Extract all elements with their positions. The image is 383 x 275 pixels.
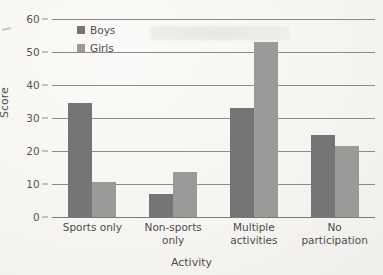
bar-boys-3 <box>311 135 335 218</box>
x-category-label-line: only <box>133 234 214 247</box>
bar-girls-1 <box>173 172 197 217</box>
bar-chart: Score 0102030405060 Sports onlyNon-sport… <box>0 0 383 275</box>
y-tick-label-20: 20 <box>26 145 40 157</box>
x-category-label-3: Noparticipation <box>294 221 375 247</box>
x-axis-category-labels: Sports onlyNon-sportsonlyMultipleactivit… <box>52 221 375 261</box>
y-tick-mark-40 <box>42 85 48 86</box>
legend-swatch-boys-icon <box>77 26 85 34</box>
legend-item-girls: Girls <box>77 40 115 55</box>
legend-item-boys: Boys <box>77 22 115 37</box>
legend-label-boys: Boys <box>90 24 115 36</box>
y-tick-label-30: 30 <box>26 112 40 124</box>
x-category-label-line: Sports only <box>52 221 133 234</box>
x-category-label-line: activities <box>214 234 295 247</box>
x-category-label-1: Non-sportsonly <box>133 221 214 247</box>
bar-boys-1 <box>149 194 173 217</box>
y-tick-label-10: 10 <box>26 178 40 190</box>
y-tick-mark-20 <box>42 151 48 152</box>
y-tick-label-60: 60 <box>26 13 40 25</box>
y-tick-mark-50 <box>42 52 48 53</box>
bar-girls-0 <box>92 182 116 217</box>
x-category-label-line: participation <box>294 234 375 247</box>
bar-girls-2 <box>254 42 278 217</box>
y-tick-label-50: 50 <box>26 46 40 58</box>
x-category-label-line: Multiple <box>214 221 295 234</box>
bar-group <box>214 19 295 217</box>
y-tick-label-40: 40 <box>26 79 40 91</box>
x-category-label-line: Non-sports <box>133 221 214 234</box>
y-tick-mark-10 <box>42 184 48 185</box>
y-tick-mark-60 <box>42 19 48 20</box>
bar-group <box>133 19 214 217</box>
y-tick-mark-0 <box>42 217 48 218</box>
y-tick-label-0: 0 <box>33 211 40 223</box>
legend-label-girls: Girls <box>90 42 114 54</box>
bar-group <box>294 19 375 217</box>
y-axis-tick-labels: 0102030405060 <box>0 19 48 217</box>
bar-boys-0 <box>68 103 92 217</box>
x-axis-title: Activity <box>0 256 383 269</box>
x-category-label-2: Multipleactivities <box>214 221 295 247</box>
x-category-label-line: No <box>294 221 375 234</box>
legend-swatch-girls-icon <box>77 44 85 52</box>
x-category-label-0: Sports only <box>52 221 133 234</box>
bar-girls-3 <box>335 146 359 217</box>
bar-boys-2 <box>230 108 254 217</box>
gridline-0 <box>52 217 375 218</box>
y-tick-mark-30 <box>42 118 48 119</box>
chart-legend: Boys Girls <box>77 22 115 58</box>
